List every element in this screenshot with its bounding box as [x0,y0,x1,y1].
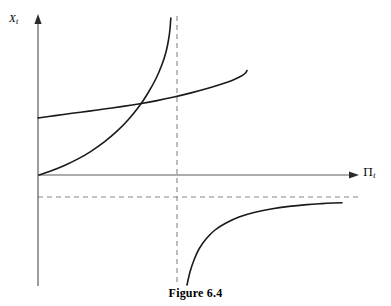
y-axis-arrowhead-icon [34,14,41,24]
figure-container: Xt Πt Figure 6.4 [0,0,391,306]
x-axis-label-symbol: Π [363,165,373,179]
x-axis-label-subscript: t [373,171,376,180]
figure-caption: Figure 6.4 [0,286,391,301]
y-axis-label-symbol: X [9,12,16,24]
y-axis-label-subscript: t [16,17,19,26]
plot-svg [0,0,391,306]
x-axis-label: Πt [363,167,376,180]
curve-lower-right-branch [187,203,342,285]
x-axis-arrowhead-icon [349,171,359,178]
y-axis-label: Xt [9,13,18,26]
curve-gentle-rising [38,71,247,119]
curve-steep-exponential [39,18,171,175]
